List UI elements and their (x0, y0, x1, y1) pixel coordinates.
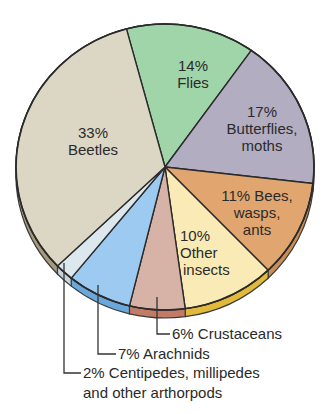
label-flies: 14% Flies (165, 57, 221, 91)
label-beetles: 33% Beetles (53, 124, 133, 158)
callout-centipedes-line2: and other arthorpods (83, 383, 222, 402)
label-butterflies-name2: moths (212, 137, 312, 154)
label-other-pct: 10% (172, 227, 242, 244)
label-other-name1: Other (172, 244, 242, 261)
label-other-insects: 10% Other insects (172, 227, 242, 278)
label-flies-pct: 14% (165, 57, 221, 74)
label-beetles-pct: 33% (53, 124, 133, 141)
callout-arachnids: 7% Arachnids (118, 344, 210, 363)
label-butterflies: 17% Butterflies, moths (212, 103, 312, 154)
label-bees-line1: 11% Bees, (207, 187, 307, 204)
callout-crustaceans: 6% Crustaceans (172, 324, 282, 343)
label-butterflies-pct: 17% (212, 103, 312, 120)
callout-centipedes-line1: 2% Centipedes, millipedes (83, 363, 260, 382)
label-other-name2: insects (172, 261, 242, 278)
label-flies-name: Flies (165, 74, 221, 91)
label-bees-line2: wasps, (207, 204, 307, 221)
label-beetles-name: Beetles (53, 141, 133, 158)
label-butterflies-name1: Butterflies, (212, 120, 312, 137)
